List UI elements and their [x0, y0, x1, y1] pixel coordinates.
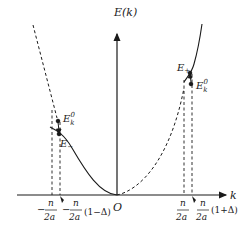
right-eplus-label: E+ [176, 62, 190, 75]
left-ek0-label: Ek0 [62, 111, 76, 127]
svg-text:2a: 2a [195, 212, 207, 222]
origin-label: O [113, 201, 122, 214]
svg-text:2a: 2a [68, 212, 80, 222]
left-free-electron-curve [33, 25, 57, 118]
right-free-electron-curve [117, 88, 184, 195]
svg-text:n: n [48, 198, 54, 208]
svg-text:n: n [180, 198, 186, 208]
left-tick2-label: − n 2a (1−Δ) [62, 198, 111, 222]
band-diagram: E(k) k O Ek0 E− E+ Ek0 − n 2a − n 2a (1−… [0, 0, 249, 231]
svg-text:(1+Δ): (1+Δ) [211, 205, 238, 215]
e-axis-label: E(k) [113, 6, 137, 19]
k-axis-label: k [230, 189, 237, 202]
left-tick1-label: − n 2a [37, 198, 57, 222]
left-tick-pointer [60, 196, 64, 203]
right-tick1-label: n 2a [175, 198, 189, 222]
svg-text:(1−Δ): (1−Δ) [84, 207, 111, 217]
right-ek0-label: Ek0 [195, 78, 209, 94]
right-tick-pointer [192, 196, 196, 203]
left-eminus-label: E− [59, 138, 73, 151]
svg-text:2a: 2a [175, 212, 187, 222]
svg-text:n: n [200, 198, 206, 208]
svg-text:2a: 2a [43, 212, 55, 222]
svg-text:n: n [73, 198, 79, 208]
